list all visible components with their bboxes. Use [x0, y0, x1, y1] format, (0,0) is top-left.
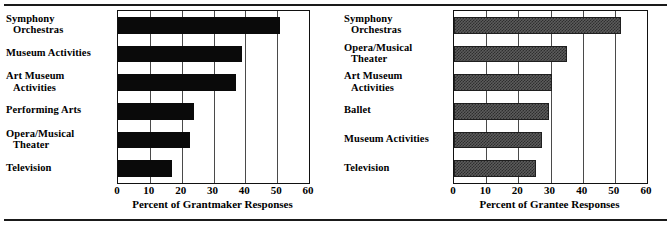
- category-label-grantee-5: Television: [344, 162, 452, 174]
- x-tick-label-20: 20: [512, 184, 523, 196]
- x-tick-label-60: 60: [641, 184, 652, 196]
- category-label-line: Symphony: [6, 13, 114, 25]
- x-tick-label-0: 0: [114, 184, 120, 196]
- category-label-grantee-0: SymphonyOrchestras: [344, 13, 452, 36]
- bar-grantee-2: [454, 74, 552, 91]
- gridline-30: [214, 11, 215, 183]
- category-label-grantmaker-2: Art MuseumActivities: [6, 70, 114, 93]
- category-label-line: Ballet: [344, 104, 452, 116]
- x-axis-title-grantmaker: Percent of Grantmaker Responses: [117, 198, 308, 210]
- category-label-grantmaker-4: Opera/MusicalTheater: [6, 128, 114, 151]
- category-label-grantmaker-0: SymphonyOrchestras: [6, 13, 114, 36]
- bar-grantmaker-2: [118, 74, 236, 91]
- category-label-line: Television: [6, 162, 114, 174]
- figure-bottom-rule: [4, 219, 667, 221]
- category-labels-grantmaker: SymphonyOrchestrasMuseum ActivitiesArt M…: [6, 8, 114, 184]
- category-label-line: Opera/Musical: [6, 128, 114, 140]
- bar-grantmaker-5: [118, 160, 172, 177]
- category-label-line: Opera/Musical: [344, 42, 452, 54]
- category-label-grantmaker-5: Television: [6, 162, 114, 174]
- plot-area-grantmaker: [117, 10, 310, 184]
- gridline-50: [277, 11, 278, 183]
- category-label-line: Activities: [6, 82, 114, 94]
- figure-container: SymphonyOrchestrasMuseum ActivitiesArt M…: [0, 0, 671, 227]
- figure-top-rule: [4, 4, 667, 6]
- bar-grantee-1: [454, 46, 567, 63]
- x-tick-label-50: 50: [608, 184, 619, 196]
- category-label-grantmaker-3: Performing Arts: [6, 104, 114, 116]
- bar-grantmaker-3: [118, 103, 194, 120]
- x-tick-label-60: 60: [303, 184, 314, 196]
- x-tick-label-10: 10: [143, 184, 154, 196]
- category-label-line: Theater: [6, 139, 114, 151]
- bar-grantmaker-1: [118, 46, 242, 63]
- category-label-line: Museum Activities: [6, 47, 114, 59]
- bar-grantee-3: [454, 103, 549, 120]
- category-label-grantee-4: Museum Activities: [344, 133, 452, 145]
- gridline-10: [486, 11, 487, 183]
- x-axis-title-grantee: Percent of Grantee Responses: [453, 198, 646, 210]
- chart-panel-grantmaker: SymphonyOrchestrasMuseum ActivitiesArt M…: [0, 8, 330, 206]
- x-axis-ticks-grantee: 0102030405060: [453, 184, 646, 198]
- gridline-30: [551, 11, 552, 183]
- category-label-grantee-3: Ballet: [344, 104, 452, 116]
- gridline-10: [150, 11, 151, 183]
- category-label-line: Performing Arts: [6, 104, 114, 116]
- category-label-grantee-2: Art MuseumActivities: [344, 70, 452, 93]
- x-tick-label-0: 0: [450, 184, 456, 196]
- bar-grantmaker-0: [118, 17, 280, 34]
- category-label-line: Symphony: [344, 13, 452, 25]
- gridline-40: [583, 11, 584, 183]
- bar-grantee-4: [454, 132, 542, 149]
- category-label-grantmaker-1: Museum Activities: [6, 47, 114, 59]
- gridline-50: [615, 11, 616, 183]
- category-label-line: Museum Activities: [344, 133, 452, 145]
- x-tick-label-30: 30: [207, 184, 218, 196]
- x-tick-label-40: 40: [576, 184, 587, 196]
- chart-panel-grantee: SymphonyOrchestrasOpera/MusicalTheaterAr…: [336, 8, 671, 206]
- x-tick-label-30: 30: [544, 184, 555, 196]
- category-label-grantee-1: Opera/MusicalTheater: [344, 42, 452, 65]
- category-label-line: Art Museum: [344, 70, 452, 82]
- gridline-40: [245, 11, 246, 183]
- plot-area-grantee: [453, 10, 648, 184]
- category-label-line: Television: [344, 162, 452, 174]
- x-tick-label-20: 20: [175, 184, 186, 196]
- x-axis-ticks-grantmaker: 0102030405060: [117, 184, 308, 198]
- x-tick-label-40: 40: [239, 184, 250, 196]
- gridline-20: [518, 11, 519, 183]
- category-label-line: Orchestras: [6, 24, 114, 36]
- gridline-20: [182, 11, 183, 183]
- category-label-line: Art Museum: [6, 70, 114, 82]
- bar-grantee-0: [454, 17, 621, 34]
- x-tick-label-50: 50: [271, 184, 282, 196]
- category-label-line: Theater: [344, 53, 452, 65]
- category-label-line: Orchestras: [344, 24, 452, 36]
- x-tick-label-10: 10: [480, 184, 491, 196]
- bar-grantmaker-4: [118, 132, 190, 149]
- category-label-line: Activities: [344, 82, 452, 94]
- category-labels-grantee: SymphonyOrchestrasOpera/MusicalTheaterAr…: [344, 8, 452, 184]
- bar-grantee-5: [454, 160, 536, 177]
